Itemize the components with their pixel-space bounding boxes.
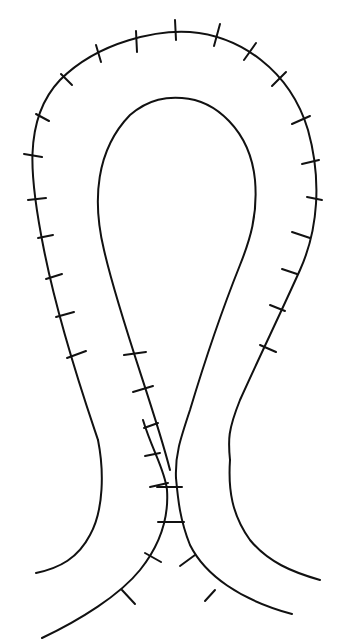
suture-tick	[136, 31, 137, 52]
right-crossing-limb	[176, 478, 292, 614]
suture-tick	[205, 590, 215, 601]
suture-tick	[292, 232, 310, 238]
suture-tick	[292, 116, 310, 124]
suture-tick	[133, 386, 153, 392]
suture-tick	[214, 24, 220, 46]
left-crossing-limb	[42, 420, 167, 638]
outer-loop-incision	[32, 32, 316, 460]
suture-tick	[180, 555, 195, 566]
suture-tick	[144, 423, 158, 428]
incision-lines	[32, 32, 320, 638]
lower-left-outer-curve	[36, 440, 102, 573]
suture-marks	[24, 20, 322, 604]
flap-suture-diagram	[0, 0, 351, 644]
lower-right-outer-curve	[230, 460, 320, 580]
suture-tick	[175, 20, 176, 40]
suture-tick	[282, 269, 297, 274]
suture-tick	[61, 74, 72, 85]
suture-tick	[307, 197, 322, 200]
suture-tick	[28, 198, 46, 200]
suture-tick	[302, 160, 319, 164]
suture-tick	[145, 453, 160, 456]
suture-tick	[244, 43, 256, 60]
suture-tick	[122, 590, 135, 604]
